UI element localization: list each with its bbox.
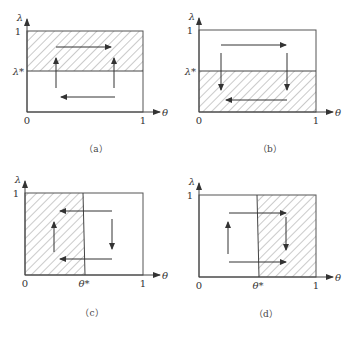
origin-label: 0 xyxy=(196,280,202,291)
panel-caption: （b） xyxy=(258,144,282,154)
shaded-region xyxy=(258,195,316,277)
y-tick-one-label: 1 xyxy=(13,188,19,199)
threshold-label: λ* xyxy=(184,66,196,77)
panel-caption: （c） xyxy=(80,308,103,318)
phase-diagram-figure: λ θ 0 1 1 λ* （a） λ θ 0 1 1 λ* （b） xyxy=(0,0,352,338)
y-axis-label-lambda: λ xyxy=(14,174,21,185)
y-axis-label-lambda: λ xyxy=(188,176,195,187)
y-tick-one-label: 1 xyxy=(15,26,21,37)
panel-a: λ θ 0 1 1 λ* （a） xyxy=(12,12,168,154)
shaded-region xyxy=(199,71,316,112)
panel-c: λ θ 0 1 1 θ* （c） xyxy=(13,174,168,318)
y-tick-one-label: 1 xyxy=(187,190,193,201)
origin-label: 0 xyxy=(22,278,28,289)
x-axis-label-theta: θ xyxy=(335,107,341,118)
y-axis-label-lambda: λ xyxy=(188,11,195,22)
threshold-label: λ* xyxy=(12,66,24,77)
origin-label: 0 xyxy=(196,115,202,126)
panel-b: λ θ 0 1 1 λ* （b） xyxy=(184,11,341,154)
x-tick-one-label: 1 xyxy=(313,115,319,126)
x-tick-one-label: 1 xyxy=(313,280,319,291)
shaded-region xyxy=(27,31,143,71)
threshold-label: θ* xyxy=(78,278,89,289)
origin-label: 0 xyxy=(24,115,30,126)
panel-caption: （a） xyxy=(84,144,107,154)
x-axis-label-theta: θ xyxy=(335,272,341,283)
y-tick-one-label: 1 xyxy=(187,25,193,36)
x-axis-label-theta: θ xyxy=(162,107,168,118)
threshold-label: θ* xyxy=(252,280,263,291)
x-tick-one-label: 1 xyxy=(140,278,146,289)
y-axis-label-lambda: λ xyxy=(16,12,23,23)
figure-canvas: λ θ 0 1 1 λ* （a） λ θ 0 1 1 λ* （b） xyxy=(0,0,352,338)
x-axis-label-theta: θ xyxy=(162,270,168,281)
x-tick-one-label: 1 xyxy=(140,115,146,126)
panel-d: λ θ 0 1 1 θ* （d） xyxy=(187,176,341,319)
panel-caption: （d） xyxy=(254,309,278,319)
